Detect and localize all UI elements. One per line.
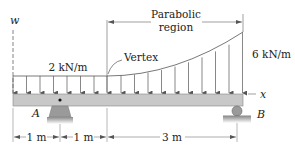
beam <box>13 94 243 106</box>
dimension-2: 1 m <box>74 131 94 143</box>
dimension-3: 3 m <box>162 131 182 143</box>
support-b-label: B <box>256 108 265 121</box>
beam-diagram: w Parabolic region 2 kN/m 6 kN/ <box>0 0 295 157</box>
w-axis: w <box>10 14 20 94</box>
x-axis-label: x <box>260 88 267 101</box>
pin-dot <box>58 98 61 101</box>
support-a: A <box>31 106 73 124</box>
vertex-label: Vertex <box>123 51 158 63</box>
support-b: B <box>223 106 265 123</box>
w-axis-label: w <box>10 14 20 27</box>
support-a-label: A <box>31 107 40 120</box>
uniform-load-label: 2 kN/m <box>48 61 87 73</box>
max-load-label: 6 kN/m <box>252 48 291 60</box>
dimension-1: 1 m <box>27 131 47 143</box>
parabolic-label-line1: Parabolic <box>151 8 201 20</box>
vertex-pointer: Vertex <box>108 51 158 74</box>
parabolic-label-line2: region <box>159 21 194 33</box>
